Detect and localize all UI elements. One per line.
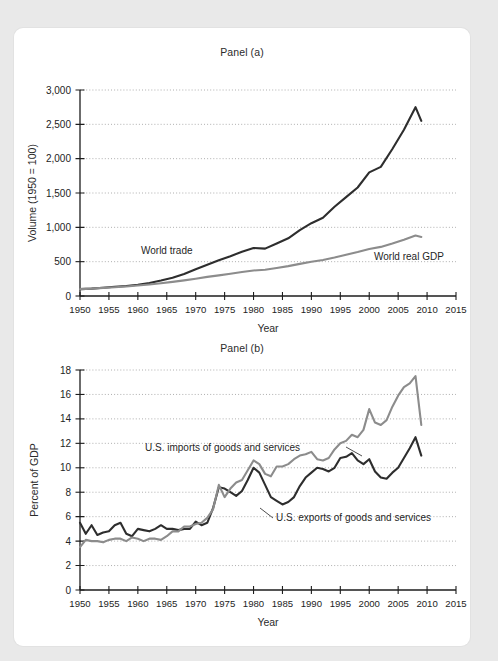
- x-axis-tick-label: 2005: [387, 598, 408, 609]
- x-axis-tick-label: 1950: [69, 598, 90, 609]
- x-axis-tick-label: 2015: [445, 598, 466, 609]
- y-axis-tick-label: 14: [60, 413, 72, 424]
- x-axis-title: Year: [257, 616, 279, 628]
- x-axis-tick-label: 1975: [214, 304, 235, 315]
- y-axis-tick-label: 0: [65, 585, 71, 596]
- panel-a-plot: 05001,0001,5002,0002,5003,00019501955196…: [14, 28, 470, 338]
- x-axis-tick-label: 1955: [98, 304, 119, 315]
- x-axis-tick-label: 1995: [330, 304, 351, 315]
- y-axis-tick-label: 12: [60, 438, 72, 449]
- x-axis-tick-label: 1975: [214, 598, 235, 609]
- x-axis-tick-label: 1970: [185, 304, 206, 315]
- panel-b: Panel (b) 024681012141618195019551960196…: [14, 338, 470, 646]
- y-axis-tick-label: 6: [65, 511, 71, 522]
- y-axis-tick-label: 0: [65, 291, 71, 302]
- x-axis-tick-label: 1995: [330, 598, 351, 609]
- series-label-world-trade: World trade: [141, 245, 193, 256]
- x-axis-tick-label: 1960: [127, 598, 148, 609]
- x-axis-tick-label: 1960: [127, 304, 148, 315]
- x-axis-tick-label: 2015: [445, 304, 466, 315]
- figure-card: Panel (a) 05001,0001,5002,0002,5003,0001…: [14, 28, 470, 646]
- x-axis-tick-label: 1985: [272, 304, 293, 315]
- y-axis-tick-label: 3,000: [46, 85, 71, 96]
- y-axis-tick-label: 1,000: [46, 222, 71, 233]
- y-axis-tick-label: 16: [60, 389, 72, 400]
- y-axis-tick-label: 2,500: [46, 119, 71, 130]
- y-axis-tick-label: 2: [65, 560, 71, 571]
- series-label-world-real-gdp: World real GDP: [374, 251, 444, 262]
- x-axis-tick-label: 2005: [387, 304, 408, 315]
- y-axis-tick-label: 1,500: [46, 188, 71, 199]
- panel-a: Panel (a) 05001,0001,5002,0002,5003,0001…: [14, 28, 470, 338]
- x-axis-tick-label: 1990: [301, 598, 322, 609]
- x-axis-tick-label: 1965: [156, 304, 177, 315]
- x-axis-tick-label: 2000: [359, 598, 380, 609]
- x-axis-tick-label: 1955: [98, 598, 119, 609]
- x-axis-tick-label: 1985: [272, 598, 293, 609]
- series-line: [80, 236, 421, 290]
- x-axis-tick-label: 1980: [243, 304, 264, 315]
- x-axis-tick-label: 1970: [185, 598, 206, 609]
- x-axis-tick-label: 1980: [243, 598, 264, 609]
- y-axis-title: Volume (1950 = 100): [26, 144, 38, 242]
- y-axis-tick-label: 8: [65, 487, 71, 498]
- x-axis-tick-label: 1990: [301, 304, 322, 315]
- series-label-us-imports: U.S. imports of goods and services: [145, 442, 300, 453]
- x-axis-tick-label: 1950: [69, 304, 90, 315]
- y-axis-tick-label: 18: [60, 365, 72, 376]
- series-label-us-exports: U.S. exports of goods and services: [276, 512, 431, 523]
- y-axis-title: Percent of GDP: [28, 443, 40, 517]
- x-axis-tick-label: 2000: [359, 304, 380, 315]
- x-axis-tick-label: 1965: [156, 598, 177, 609]
- y-axis-tick-label: 10: [60, 462, 72, 473]
- panel-b-plot: 0246810121416181950195519601965197019751…: [14, 338, 470, 646]
- x-axis-title: Year: [257, 322, 279, 334]
- y-axis-tick-label: 4: [65, 536, 71, 547]
- y-axis-tick-label: 500: [54, 256, 71, 267]
- x-axis-tick-label: 2010: [416, 598, 437, 609]
- x-axis-tick-label: 2010: [416, 304, 437, 315]
- y-axis-tick-label: 2,000: [46, 153, 71, 164]
